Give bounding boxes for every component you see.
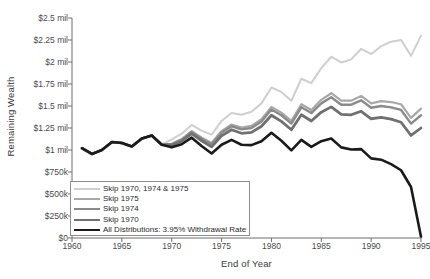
legend-color-swatch — [74, 229, 100, 231]
legend-item: Skip 1970, 1974 & 1975 — [74, 184, 246, 194]
series-line — [82, 36, 421, 154]
legend-item-label: Skip 1974 — [103, 205, 139, 213]
y-axis-tick-label: $500k — [45, 190, 68, 199]
x-axis-tick-label: 1990 — [362, 242, 381, 251]
y-axis-tick-label: $750k — [45, 168, 68, 177]
y-axis-tick-label: $1.5 mil — [38, 102, 68, 111]
x-axis-tick-label: 1985 — [312, 242, 331, 251]
x-axis-tick-label: 1975 — [212, 242, 231, 251]
legend-color-swatch — [74, 219, 100, 221]
x-axis-tick-label: 1960 — [63, 242, 82, 251]
y-axis-tick-label: $2.25 mil — [34, 36, 69, 45]
y-axis-tick-label: $1.25 mil — [34, 124, 69, 133]
x-axis-title-text: End of Year — [72, 258, 421, 269]
y-axis-tick-labels: $0$250k$500k$750k$1 mil$1.25 mil$1.5 mil… — [18, 0, 68, 279]
legend-item-label: Skip 1975 — [103, 195, 139, 203]
legend-color-swatch — [74, 208, 100, 210]
x-axis-tick-label: 1980 — [262, 242, 281, 251]
legend-item-label: Skip 1970 — [103, 216, 139, 224]
legend-item: Skip 1974 — [74, 204, 246, 214]
y-axis-title-text: Remaining Wealth — [6, 76, 17, 156]
legend-item: Skip 1975 — [74, 194, 246, 204]
legend-item-label: All Distributions: 3.95% Withdrawal Rate — [103, 226, 246, 234]
legend-color-swatch — [74, 198, 100, 200]
legend-item: All Distributions: 3.95% Withdrawal Rate — [74, 225, 246, 235]
x-axis-tick-label: 1995 — [412, 242, 430, 251]
y-axis-tick-label: $1.75 mil — [34, 80, 69, 89]
y-axis-tick-label: $1 mil — [45, 146, 68, 155]
legend-item-label: Skip 1970, 1974 & 1975 — [103, 185, 188, 193]
legend-item: Skip 1970 — [74, 215, 246, 225]
x-axis-tick-label: 1970 — [162, 242, 181, 251]
x-axis-tick-label: 1965 — [112, 242, 131, 251]
legend-color-swatch — [74, 188, 100, 190]
y-axis-tick-label: $2 mil — [45, 58, 68, 67]
y-axis-tick-label: $2.5 mil — [38, 14, 68, 23]
chart-legend: Skip 1970, 1974 & 1975Skip 1975Skip 1974… — [70, 181, 250, 236]
y-axis-tick-label: $250k — [45, 212, 68, 221]
